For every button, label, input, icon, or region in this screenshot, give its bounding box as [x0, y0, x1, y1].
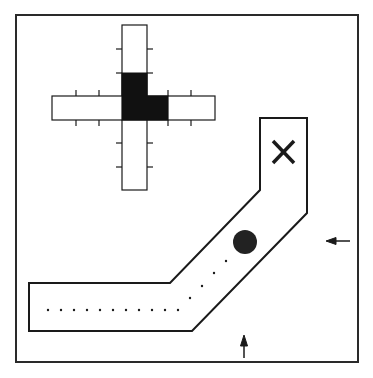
- scene: [0, 0, 373, 378]
- cross-filled-cells: [122, 73, 168, 120]
- agent-ball: [233, 230, 257, 254]
- up-arrow-icon: [241, 335, 248, 358]
- corridor: [29, 118, 307, 331]
- cross-map: [52, 25, 215, 190]
- left-arrow-icon: [326, 238, 350, 245]
